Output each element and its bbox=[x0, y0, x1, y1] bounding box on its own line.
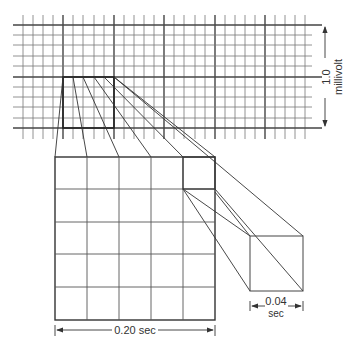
ecg-paper-grid bbox=[13, 15, 322, 139]
small-box-time-unit: sec bbox=[268, 308, 284, 319]
enlarged-large-square bbox=[55, 157, 215, 320]
highlighted-large-square bbox=[63, 77, 114, 128]
large-box-time-label: 0.20 sec bbox=[114, 324, 156, 336]
ecg-grid-diagram: 1.0 millivolt 0.20 sec 0.04 sec bbox=[0, 0, 350, 348]
small-box-time-value: 0.04 bbox=[265, 295, 286, 307]
enlarged-small-square bbox=[250, 236, 303, 291]
projection-lines bbox=[55, 77, 303, 291]
voltage-value-label: 1.0 bbox=[320, 69, 332, 84]
voltage-unit-label: millivolt bbox=[332, 59, 344, 95]
